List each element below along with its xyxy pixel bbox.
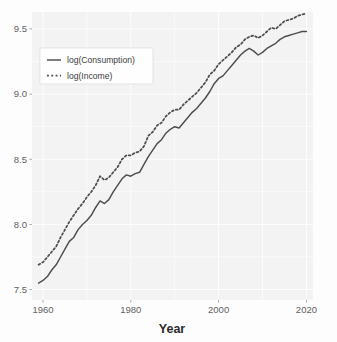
legend-label: log(Income) <box>67 71 113 81</box>
y-tick-label: 7.5 <box>14 284 27 295</box>
x-tick-label: 1960 <box>32 304 53 315</box>
line-chart: 7.58.08.59.09.5 1960198020002020 Year lo… <box>0 0 337 342</box>
x-axis-title: Year <box>159 322 186 336</box>
y-tick-label: 8.5 <box>14 154 27 165</box>
y-tick-label: 9.5 <box>14 23 27 34</box>
x-tick-label: 1980 <box>120 304 141 315</box>
legend-label: log(Consumption) <box>67 55 135 65</box>
y-tick-label: 9.0 <box>14 88 27 99</box>
chart-figure: 7.58.08.59.09.5 1960198020002020 Year lo… <box>0 0 337 342</box>
x-tick-label: 2020 <box>296 304 317 315</box>
chart-legend: log(Consumption)log(Income) <box>40 48 153 84</box>
x-tick-label: 2000 <box>208 304 229 315</box>
y-tick-label: 8.0 <box>14 219 27 230</box>
